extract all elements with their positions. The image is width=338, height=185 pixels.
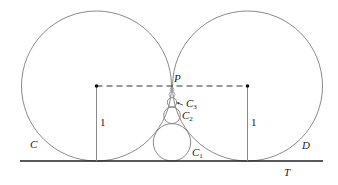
- label-c2: C2: [182, 109, 193, 123]
- circle-c5: [170, 88, 174, 92]
- label-radius-right: 1: [251, 116, 257, 128]
- center-dot-d: [246, 84, 250, 88]
- circle-c4: [169, 92, 175, 98]
- circles-diagram: P C3 C2 C1 C D T 1 1: [0, 0, 338, 185]
- label-radius-left: 1: [100, 116, 106, 128]
- label-c: C: [30, 138, 38, 150]
- circle-c3: [167, 98, 176, 107]
- circle-c1: [153, 124, 190, 161]
- label-p: P: [173, 72, 181, 84]
- center-dot-c: [95, 84, 99, 88]
- label-d: D: [301, 139, 310, 151]
- circle-c2: [164, 107, 181, 124]
- label-t: T: [284, 166, 291, 178]
- label-c1: C1: [192, 146, 203, 160]
